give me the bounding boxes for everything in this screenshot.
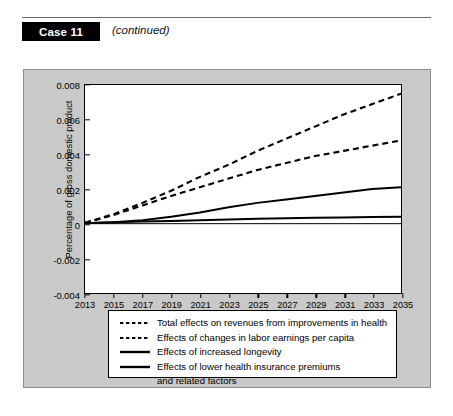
legend-label: Total effects on revenues from improveme… (157, 317, 387, 329)
x-tick-label: 2021 (190, 300, 210, 310)
y-tick-mark (85, 259, 90, 260)
legend-label: Effects of increased longevity (157, 346, 282, 358)
x-tick-label: 2017 (133, 300, 153, 310)
x-tick-mark (344, 293, 345, 298)
y-tick-label: 0 (75, 220, 80, 231)
continued-label: (continued) (112, 24, 170, 36)
figure-panel: Percentage of gross domestic product 0.0… (23, 69, 431, 388)
x-tick-label: 2023 (219, 300, 239, 310)
legend-item: Effects of changes in labor earnings per… (109, 332, 396, 347)
y-tick-mark (85, 189, 90, 190)
x-tick-mark (287, 293, 288, 298)
chart-lines (85, 85, 401, 293)
x-tick-mark (402, 293, 403, 298)
x-tick-label: 2013 (75, 300, 95, 310)
x-tick-label: 2035 (393, 300, 413, 310)
x-tick-mark (200, 293, 201, 298)
legend-label: Effects of changes in labor earnings per… (157, 332, 354, 344)
x-tick-mark (373, 293, 374, 298)
y-tick-label: 0.004 (57, 150, 80, 161)
y-tick-label: -0.002 (53, 255, 80, 266)
y-axis-title: Percentage of gross domestic product (63, 85, 74, 275)
x-tick-label: 2025 (248, 300, 268, 310)
header-divider (22, 17, 431, 18)
x-tick-mark (84, 293, 85, 298)
x-tick-mark (171, 293, 172, 298)
legend-label: Effects of lower health insurance premiu… (157, 361, 340, 373)
chart-legend: Total effects on revenues from improveme… (108, 310, 397, 378)
dashed-line-icon (120, 332, 150, 344)
x-tick-label: 2027 (277, 300, 297, 310)
series-line-2 (85, 140, 401, 222)
y-tick-mark (85, 154, 90, 155)
y-tick-mark (85, 294, 90, 295)
x-tick-label: 2029 (306, 300, 326, 310)
solid-line-icon (120, 361, 150, 373)
y-tick-label: 0.002 (57, 185, 80, 196)
x-tick-mark (142, 293, 143, 298)
legend-label-continued: and related factors (109, 375, 396, 387)
y-tick-mark (85, 224, 90, 225)
legend-item: Effects of lower health insurance premiu… (109, 361, 396, 376)
x-tick-label: 2019 (161, 300, 181, 310)
y-tick-mark (85, 119, 90, 120)
x-tick-mark (316, 293, 317, 298)
plot-area: 0.0080.0060.0040.0020-0.002-0.0042013201… (84, 84, 402, 294)
x-tick-label: 2031 (335, 300, 355, 310)
case-badge: Case 11 (22, 22, 100, 41)
dashed-line-icon (120, 317, 150, 329)
x-tick-mark (113, 293, 114, 298)
y-tick-label: 0.008 (57, 80, 80, 91)
x-tick-mark (229, 293, 230, 298)
solid-line-icon (120, 346, 150, 358)
y-tick-label: -0.004 (53, 290, 80, 301)
legend-item: Total effects on revenues from improveme… (109, 317, 396, 332)
x-tick-label: 2033 (364, 300, 384, 310)
y-tick-label: 0.006 (57, 115, 80, 126)
x-tick-mark (258, 293, 259, 298)
y-tick-mark (85, 84, 90, 85)
series-line-1 (85, 94, 401, 223)
x-tick-label: 2015 (104, 300, 124, 310)
legend-item: Effects of increased longevity (109, 346, 396, 361)
